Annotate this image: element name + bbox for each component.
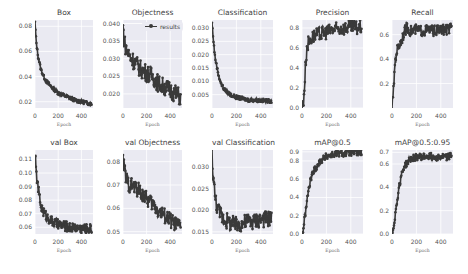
legend-label: results: [160, 23, 180, 30]
y-tick-label: 0.020: [179, 206, 209, 213]
y-tick-label: 0.4: [269, 64, 299, 71]
y-tick-label: 0.020: [90, 90, 120, 97]
x-axis-label: Epoch: [302, 122, 363, 127]
y-tick-label: 0.2: [359, 207, 389, 214]
chart-title: Classification: [212, 8, 273, 17]
x-tick-label: 200: [46, 238, 70, 245]
y-tick-label: 0.6: [269, 175, 299, 182]
y-tick-label: 0.6: [269, 44, 299, 51]
y-tick-label: 0.6: [359, 160, 389, 167]
y-tick-label: 0.11: [2, 155, 32, 162]
y-tick-label: 0.0: [359, 230, 389, 237]
y-tick-label: 0.4: [269, 193, 299, 200]
y-tick-label: 0.2: [269, 84, 299, 91]
plot-area: [35, 150, 93, 234]
y-tick-label: 0.025: [179, 37, 209, 44]
x-tick-label: 400: [339, 112, 363, 119]
chart-title: mAP@0.5:0.95: [392, 138, 453, 147]
y-tick-label: 0.0: [269, 104, 299, 111]
x-tick-label: 0: [23, 112, 47, 119]
x-tick-label: 400: [429, 238, 453, 245]
y-tick-label: 0.8: [269, 24, 299, 31]
x-axis-label: Epoch: [212, 122, 273, 127]
y-tick-label: 0.04: [2, 73, 32, 80]
x-axis-label: Epoch: [212, 248, 273, 253]
plot-area: [212, 20, 273, 108]
y-tick-label: 0.030: [90, 55, 120, 62]
x-tick-label: 400: [339, 238, 363, 245]
x-tick-label: 400: [158, 238, 182, 245]
x-tick-label: 400: [429, 112, 453, 119]
line-plot: [35, 150, 93, 234]
line-plot: [35, 20, 93, 108]
y-tick-label: 0.4: [359, 55, 389, 62]
x-axis-label: Epoch: [35, 122, 93, 127]
y-tick-label: 0.06: [2, 47, 32, 54]
x-tick-label: 400: [249, 112, 273, 119]
x-axis-label: Epoch: [392, 122, 453, 127]
line-plot: [212, 150, 273, 234]
chart-title: Box: [35, 8, 93, 17]
x-axis-label: Epoch: [392, 248, 453, 253]
plot-area: [35, 20, 93, 108]
y-tick-label: 0.010: [179, 77, 209, 84]
line-plot: [212, 20, 273, 108]
x-axis-label: Epoch: [302, 248, 363, 253]
x-axis-label: Epoch: [123, 248, 182, 253]
y-tick-label: 0.05: [90, 228, 120, 235]
line-plot: [392, 20, 453, 108]
plot-area: [123, 20, 182, 108]
line-plot: [392, 150, 453, 234]
x-tick-label: 0: [200, 238, 224, 245]
chart-title: Recall: [392, 8, 453, 17]
x-tick-label: 0: [23, 238, 47, 245]
y-tick-label: 0.07: [2, 210, 32, 217]
y-tick-label: 0.2: [359, 80, 389, 87]
x-tick-label: 0: [200, 112, 224, 119]
x-tick-label: 200: [135, 238, 159, 245]
y-tick-label: 0.8: [269, 157, 299, 164]
x-tick-label: 400: [249, 238, 273, 245]
y-tick-label: 0.07: [90, 181, 120, 188]
y-tick-label: 0.08: [2, 22, 32, 29]
x-tick-label: 200: [46, 112, 70, 119]
x-tick-label: 200: [135, 112, 159, 119]
y-tick-label: 0.035: [90, 37, 120, 44]
y-tick-label: 0.4: [359, 183, 389, 190]
y-tick-label: 0.015: [179, 64, 209, 71]
y-tick-label: 0.020: [179, 51, 209, 58]
chart-title: val Classification: [212, 138, 273, 147]
x-tick-label: 0: [111, 238, 135, 245]
x-tick-label: 200: [314, 238, 338, 245]
y-tick-label: 0.030: [179, 163, 209, 170]
y-tick-label: 0.015: [179, 228, 209, 235]
x-axis-label: Epoch: [123, 122, 182, 127]
chart-title: Objectness: [123, 8, 182, 17]
y-tick-label: 0.10: [2, 169, 32, 176]
y-tick-label: 0.02: [2, 98, 32, 105]
x-tick-label: 0: [380, 238, 404, 245]
x-tick-label: 400: [158, 112, 182, 119]
plot-area: [123, 150, 182, 234]
plot-area: [392, 150, 453, 234]
y-tick-label: 0.06: [90, 204, 120, 211]
x-tick-label: 0: [290, 238, 314, 245]
x-tick-label: 0: [111, 112, 135, 119]
x-tick-label: 0: [290, 112, 314, 119]
x-tick-label: 0: [380, 112, 404, 119]
legend-line-marker-icon: [145, 26, 157, 28]
plot-area: [302, 150, 363, 234]
y-tick-label: 0.025: [90, 72, 120, 79]
x-tick-label: 200: [404, 238, 428, 245]
y-tick-label: 0.9: [269, 148, 299, 155]
y-tick-label: 0.025: [179, 185, 209, 192]
x-tick-label: 400: [69, 112, 93, 119]
plot-area: [392, 20, 453, 108]
x-tick-label: 200: [224, 112, 248, 119]
x-axis-label: Epoch: [35, 248, 93, 253]
y-tick-label: 0.2: [269, 212, 299, 219]
line-plot: [123, 150, 182, 234]
x-tick-label: 200: [314, 112, 338, 119]
line-plot: [123, 20, 182, 108]
plot-area: [212, 150, 273, 234]
